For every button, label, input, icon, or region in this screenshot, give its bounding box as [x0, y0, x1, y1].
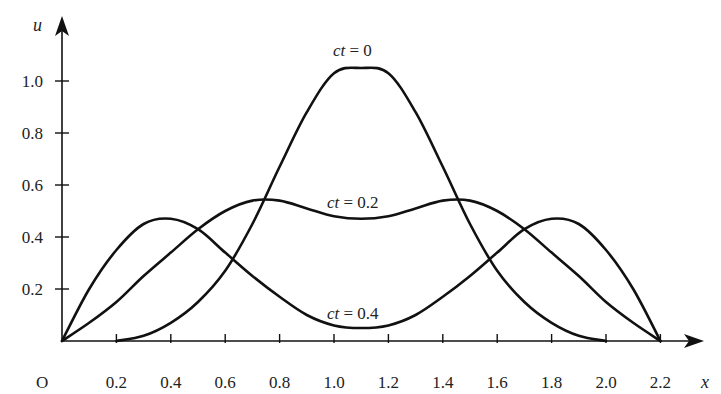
origin-label: O — [36, 373, 48, 392]
x-tick-label: 1.4 — [432, 373, 454, 392]
curve-labels: ct = 0 ct = 0.2 ct = 0.4 — [327, 41, 379, 323]
y-tick-label: 1.0 — [22, 72, 43, 91]
x-tick-label: 1.8 — [541, 373, 562, 392]
y-tick-label: 0.4 — [22, 228, 44, 247]
y-tick-label: 0.8 — [22, 124, 43, 143]
curve-label-ct-0-2: ct = 0.2 — [327, 193, 379, 212]
x-tick-label: 1.0 — [323, 373, 344, 392]
curve-label-ct-0-4: ct = 0.4 — [327, 304, 379, 323]
curve-label-ct-0: ct = 0 — [333, 41, 372, 60]
x-tick-label: 0.6 — [215, 373, 236, 392]
y-tick-label: 0.6 — [22, 176, 43, 195]
x-tick-label: 0.2 — [106, 373, 127, 392]
x-tick-label: 0.4 — [160, 373, 182, 392]
x-ticks: 0.20.40.60.81.01.21.41.61.82.02.2 — [106, 334, 671, 392]
x-tick-label: 2.0 — [595, 373, 616, 392]
x-tick-label: 0.8 — [269, 373, 290, 392]
y-tick-label: 0.2 — [22, 280, 43, 299]
x-tick-label: 1.2 — [378, 373, 399, 392]
x-tick-label: 1.6 — [487, 373, 508, 392]
y-axis-label: u — [33, 15, 42, 35]
x-tick-label: 2.2 — [650, 373, 671, 392]
chart-plot: x u O 0.20.40.60.81.01.21.41.61.82.02.2 … — [0, 0, 721, 394]
x-axis-label: x — [700, 372, 709, 392]
